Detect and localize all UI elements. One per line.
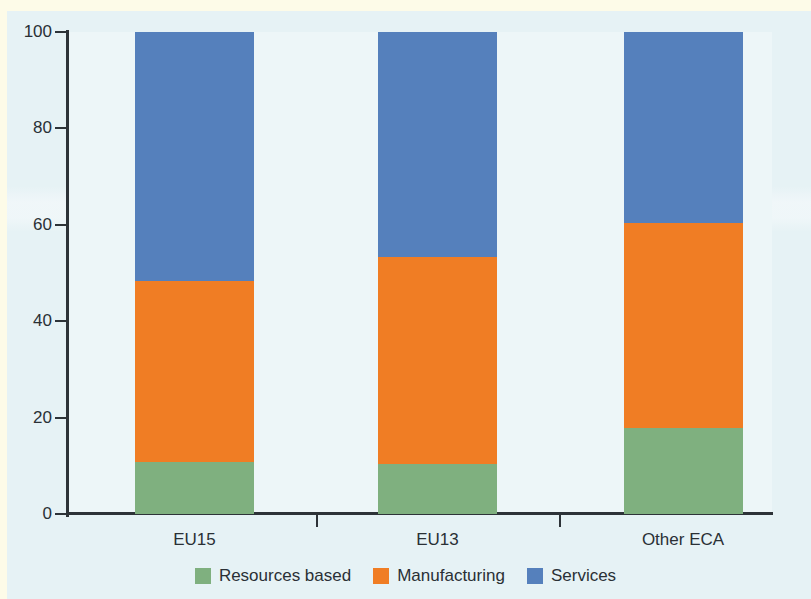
legend-swatch-icon [373,568,389,584]
y-axis-tick [55,224,68,226]
y-axis-label: 0 [0,505,52,522]
x-axis-tick [559,514,561,527]
y-axis-label: 60 [0,216,52,233]
x-axis-label-eu15: EU15 [105,530,285,550]
y-axis-label: 100 [0,23,52,40]
legend-label: Resources based [219,566,351,586]
bar-segment-manufacturing[interactable] [624,223,743,428]
bar-segment-manufacturing[interactable] [135,281,254,462]
legend-item-manufacturing[interactable]: Manufacturing [373,566,505,586]
bar-segment-services[interactable] [624,32,743,223]
chart-figure: 020406080100 EU15EU13Other ECA Resources… [0,0,811,599]
x-axis-tick [316,514,318,527]
x-axis-label-other-eca: Other ECA [593,530,773,550]
y-axis-tick [55,31,68,33]
y-axis-tick [55,127,68,129]
legend-label: Manufacturing [397,566,505,586]
bar-segment-resources-based[interactable] [624,428,743,514]
bar-segment-services[interactable] [135,32,254,281]
legend-swatch-icon [527,568,543,584]
legend-item-services[interactable]: Services [527,566,616,586]
y-axis-tick [55,320,68,322]
bar-segment-resources-based[interactable] [135,462,254,514]
y-axis-label: 20 [0,409,52,426]
y-axis-label: 40 [0,312,52,329]
bar-column-eu15[interactable] [135,32,254,514]
bar-segment-manufacturing[interactable] [378,257,497,464]
x-axis-label-eu13: EU13 [348,530,528,550]
bar-segment-resources-based[interactable] [378,464,497,514]
y-axis-line [66,30,69,517]
bar-segment-services[interactable] [378,32,497,257]
y-axis-tick [55,417,68,419]
y-axis-tick [55,513,68,515]
chart-legend: Resources basedManufacturingServices [0,566,811,586]
bar-column-eu13[interactable] [378,32,497,514]
legend-swatch-icon [195,568,211,584]
y-axis-label: 80 [0,119,52,136]
bar-column-other-eca[interactable] [624,32,743,514]
legend-item-resources-based[interactable]: Resources based [195,566,351,586]
legend-label: Services [551,566,616,586]
